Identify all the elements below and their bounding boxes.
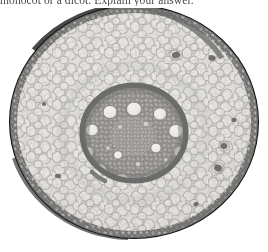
page-root: monocot or a dicot. Explain your answer.	[0, 0, 268, 252]
micrograph-svg	[0, 8, 268, 252]
question-text: monocot or a dicot. Explain your answer.	[0, 0, 268, 6]
root-cross-section-figure	[0, 8, 268, 252]
